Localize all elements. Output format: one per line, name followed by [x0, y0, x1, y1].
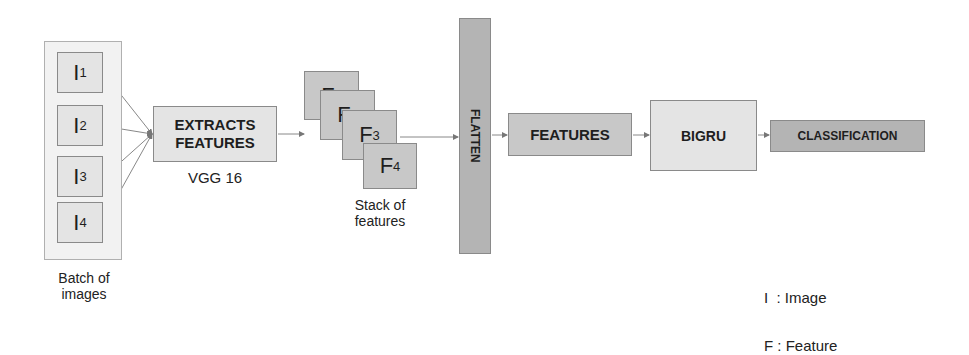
bigru-box: BIGRU [650, 100, 757, 171]
image-box-3: I3 [57, 156, 103, 197]
features-box: FEATURES [508, 113, 632, 156]
image-box-2: I2 [57, 105, 103, 146]
extract-features-box: EXTRACTS FEATURES [153, 106, 277, 162]
legend-feature: F : Feature [764, 338, 904, 354]
vgg16-caption: VGG 16 [153, 170, 277, 186]
feature-box-4: F4 [363, 143, 417, 189]
stack-caption: Stack of features [330, 197, 430, 229]
image-box-1: I1 [57, 52, 103, 93]
classification-box: CLASSIFICATION [770, 120, 925, 152]
image-box-4: I4 [57, 202, 103, 243]
legend: I : Image F : Feature [764, 258, 904, 355]
legend-image: I : Image [764, 290, 904, 306]
flatten-layer: FLATTEN [459, 18, 491, 254]
batch-caption: Batch of images [34, 270, 134, 302]
